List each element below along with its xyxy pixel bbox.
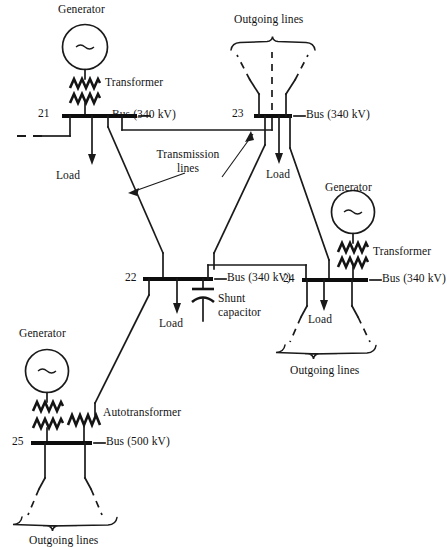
outgoing-24-brace [276, 345, 376, 359]
generator-25-label: Generator [19, 327, 66, 341]
one-line-diagram: Generator Transformer 21 Bus (340 kV) Lo… [0, 0, 447, 547]
outgoing-25-left-bend [39, 478, 45, 489]
transformer-24-coil-upper [338, 243, 368, 252]
outgoing-25-brace [13, 517, 117, 531]
transformer-24-coil-lower [338, 258, 368, 267]
load-23-label: Load [266, 168, 290, 182]
outgoing-24-left-bend [301, 306, 307, 317]
generator-21-label: Generator [58, 3, 105, 17]
load-24-label: Load [308, 313, 332, 327]
line-22-25-diagonal [95, 295, 149, 403]
load-21-label: Load [56, 169, 80, 183]
outgoing-25-label: Outgoing lines [29, 534, 98, 547]
outgoing-23-brace [231, 37, 315, 51]
shunt-capacitor-label-line2: capacitor [218, 306, 261, 320]
bus-25-label: Bus (500 kV) [106, 435, 170, 449]
outgoing-24-label: Outgoing lines [290, 364, 359, 378]
transformer-24-label: Transformer [373, 245, 431, 259]
outgoing-23-right-dashed [295, 55, 308, 80]
bus-22-label: Bus (340 kV) [227, 271, 291, 285]
transformer-21-coil-lower [70, 94, 100, 103]
load-22-arrowhead [173, 303, 181, 314]
transmission-lines-label: Transmissionlines [140, 148, 236, 175]
autotransformer-coil [68, 415, 100, 425]
bus-21-label: Bus (340 kV) [112, 108, 176, 122]
transmission-lines-label-line2: lines [177, 162, 199, 174]
bus-24-number: 24 [283, 272, 295, 286]
generator-24-label: Generator [325, 181, 372, 195]
outgoing-25-right-dashed [91, 489, 102, 515]
outgoing-23-label: Outgoing lines [234, 13, 303, 27]
transmission-lines-arrowhead-upper [245, 131, 254, 142]
outgoing-24-right-dashed [358, 317, 370, 342]
outgoing-25-left-dashed [28, 489, 39, 515]
outgoing-23-left-dashed [237, 55, 250, 80]
load-21-arrowhead [88, 154, 96, 165]
transformer-21-coil-upper [70, 79, 100, 88]
outgoing-23-left-bend [250, 80, 259, 94]
schematic-canvas [0, 0, 447, 547]
bus-24-label: Bus (340 kV) [382, 272, 446, 286]
transformer-21-label: Transformer [105, 76, 163, 90]
transmission-lines-label-line1: Transmission [157, 148, 220, 160]
autotransformer-label: Autotransformer [103, 406, 181, 420]
outgoing-24-right-bend [352, 306, 358, 317]
outgoing-23-right-bend [286, 80, 295, 94]
outgoing-25-right-bend [85, 478, 91, 489]
bus-25-number: 25 [12, 435, 24, 449]
transmission-lines-leader-lower [132, 173, 185, 192]
bus-22-number: 22 [125, 271, 137, 285]
bus-23-label: Bus (340 kV) [306, 108, 370, 122]
load-22-label: Load [159, 317, 183, 331]
transformer-25-coil-upper [33, 402, 63, 411]
load-24-arrowhead [320, 300, 328, 311]
outgoing-24-left-dashed [290, 317, 301, 342]
bus-21-number: 21 [38, 107, 50, 121]
load-23-arrowhead [275, 153, 283, 164]
line-23-24-diagonal [290, 148, 329, 260]
shunt-capacitor-label-line1: Shunt [218, 292, 245, 306]
transformer-25-coil-lower [33, 419, 63, 428]
bus-23-number: 23 [232, 107, 244, 121]
